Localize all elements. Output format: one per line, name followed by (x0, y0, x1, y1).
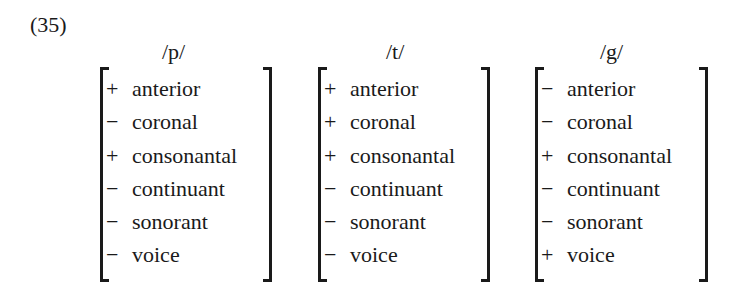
feature-row: −coronal (541, 105, 672, 138)
feature-list: −anterior −coronal +consonantal −continu… (541, 72, 672, 272)
feature-name: consonantal (350, 139, 455, 172)
feature-row: +consonantal (541, 139, 672, 172)
feature-name: sonorant (132, 205, 208, 238)
feature-sign: − (324, 205, 350, 238)
feature-sign: + (541, 238, 567, 271)
feature-sign: − (324, 238, 350, 271)
feature-row: −sonorant (541, 205, 672, 238)
feature-sign: − (106, 105, 132, 138)
feature-row: −anterior (541, 72, 672, 105)
feature-name: consonantal (132, 139, 237, 172)
feature-sign: − (541, 205, 567, 238)
feature-name: voice (350, 238, 398, 271)
feature-row: −continuant (324, 172, 455, 205)
feature-sign: − (541, 172, 567, 205)
feature-row: +anterior (106, 72, 237, 105)
feature-name: coronal (350, 105, 416, 138)
feature-row: −coronal (106, 105, 237, 138)
feature-row: −sonorant (324, 205, 455, 238)
feature-row: +consonantal (324, 139, 455, 172)
feature-name: continuant (350, 172, 443, 205)
feature-name: sonorant (567, 205, 643, 238)
feature-row: −continuant (106, 172, 237, 205)
right-bracket (263, 67, 272, 282)
feature-row: −continuant (541, 172, 672, 205)
feature-name: voice (132, 238, 180, 271)
feature-row: +consonantal (106, 139, 237, 172)
feature-list: +anterior −coronal +consonantal −continu… (106, 72, 237, 272)
feature-name: continuant (132, 172, 225, 205)
segment-label: /t/ (386, 40, 404, 64)
feature-row: −voice (324, 238, 455, 271)
feature-sign: + (541, 139, 567, 172)
feature-sign: + (106, 139, 132, 172)
feature-name: continuant (567, 172, 660, 205)
feature-name: voice (567, 238, 615, 271)
feature-sign: − (106, 172, 132, 205)
feature-sign: + (324, 139, 350, 172)
feature-row: +anterior (324, 72, 455, 105)
example-number: (35) (30, 12, 67, 38)
feature-row: −sonorant (106, 205, 237, 238)
feature-name: anterior (567, 72, 635, 105)
feature-row: +voice (541, 238, 672, 271)
feature-sign: − (324, 172, 350, 205)
feature-name: consonantal (567, 139, 672, 172)
segment-label: /p/ (162, 40, 185, 64)
feature-name: coronal (567, 105, 633, 138)
feature-name: coronal (132, 105, 198, 138)
feature-sign: + (324, 72, 350, 105)
segment-label: /g/ (600, 40, 623, 64)
feature-list: +anterior +coronal +consonantal −continu… (324, 72, 455, 272)
feature-name: anterior (350, 72, 418, 105)
feature-row: −voice (106, 238, 237, 271)
feature-name: sonorant (350, 205, 426, 238)
feature-row: +coronal (324, 105, 455, 138)
feature-sign: − (541, 105, 567, 138)
feature-sign: + (324, 105, 350, 138)
feature-sign: − (106, 205, 132, 238)
feature-sign: − (541, 72, 567, 105)
feature-name: anterior (132, 72, 200, 105)
feature-sign: + (106, 72, 132, 105)
right-bracket (699, 67, 708, 282)
feature-sign: − (106, 238, 132, 271)
right-bracket (481, 67, 490, 282)
